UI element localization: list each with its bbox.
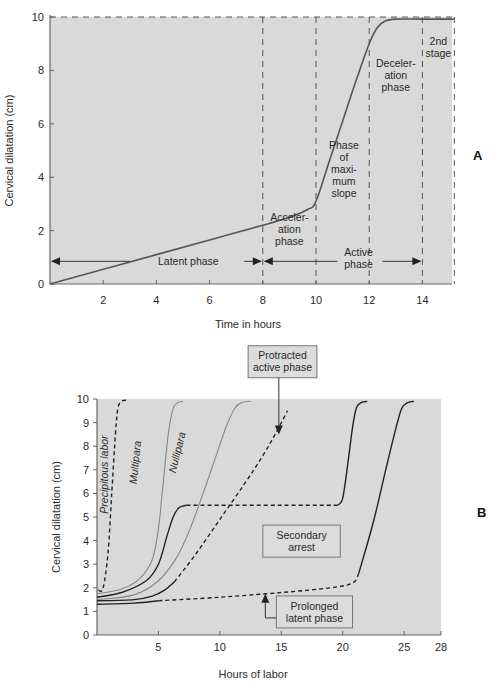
annotation-phase-of-maxi-mum-slope: Phaseofmaxi-mumslope — [329, 139, 359, 199]
y-axis-label-b: Cervical dilatation (cm) — [50, 461, 62, 573]
callout-protracted-active-phase-text: Protractedactive phase — [253, 349, 312, 373]
y-tick-label-b: 0 — [83, 629, 89, 641]
panel-label-a: A — [473, 148, 482, 163]
y-tick-label-b: 10 — [77, 393, 89, 405]
chart-a-cervical-dilatation-vs-time: 24681012140246810Time in hoursCervical d… — [3, 11, 454, 330]
annotation-active-phase: Activephase — [344, 246, 373, 270]
plot-area-b — [97, 399, 441, 635]
x-tick-label-b: 25 — [398, 641, 410, 653]
y-tick-label-b: 6 — [83, 487, 89, 499]
y-tick-label-b: 4 — [83, 535, 89, 547]
x-tick-label-a: 12 — [363, 294, 375, 306]
labor-curves-figure: 24681012140246810Time in hoursCervical d… — [0, 0, 501, 695]
x-tick-label-a: 10 — [310, 294, 322, 306]
x-tick-label-a: 2 — [100, 294, 106, 306]
x-tick-label-b: 5 — [155, 641, 161, 653]
panel-label-b: B — [477, 505, 486, 520]
y-tick-label-a: 0 — [38, 278, 44, 290]
x-tick-label-a: 8 — [260, 294, 266, 306]
x-tick-label-a: 14 — [416, 294, 428, 306]
y-tick-label-b: 3 — [83, 558, 89, 570]
y-tick-label-b: 2 — [83, 582, 89, 594]
x-tick-label-b: 20 — [337, 641, 349, 653]
annotation-latent-phase: Latent phase — [158, 255, 219, 267]
y-tick-label-a: 10 — [32, 11, 44, 23]
y-tick-label-b: 1 — [83, 605, 89, 617]
y-tick-label-a: 6 — [38, 118, 44, 130]
y-tick-label-b: 5 — [83, 511, 89, 523]
y-tick-label-a: 8 — [38, 64, 44, 76]
x-tick-label-a: 4 — [153, 294, 159, 306]
y-tick-label-a: 4 — [38, 171, 44, 183]
x-tick-label-b: 10 — [214, 641, 226, 653]
callout-prolonged-latent-phase-text: Prolongedlatent phase — [286, 600, 343, 624]
x-tick-label-a: 6 — [207, 294, 213, 306]
y-axis-label-a: Cervical dilatation (cm) — [3, 95, 15, 207]
y-tick-label-b: 9 — [83, 417, 89, 429]
y-tick-label-a: 2 — [38, 225, 44, 237]
x-axis-label-a: Time in hours — [215, 318, 282, 330]
x-axis-label-b: Hours of labor — [218, 668, 287, 680]
x-tick-label-b: 15 — [275, 641, 287, 653]
y-tick-label-b: 7 — [83, 464, 89, 476]
curve-label-precipitous-labor: Precipitous labor — [98, 435, 110, 514]
x-tick-label-b: 28 — [435, 641, 447, 653]
chart-b-labor-patterns: 51015202528012345678910Hours of laborCer… — [50, 346, 447, 680]
y-tick-label-b: 8 — [83, 440, 89, 452]
callout-secondary-arrest: Secondaryarrest — [263, 525, 340, 557]
